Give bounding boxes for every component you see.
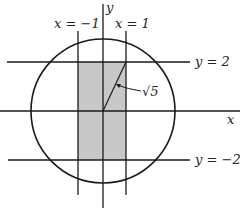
label-x-neg1: x = −1: [54, 16, 100, 31]
radius-label: √5: [142, 84, 159, 99]
label-y-pos2: y = 2: [194, 54, 230, 69]
label-y-neg2: y = −2: [194, 152, 240, 167]
y-axis-label: y: [105, 0, 114, 15]
diagram-canvas: y x x = −1 x = 1 y = 2 y = −2 √5: [0, 0, 240, 208]
label-x-pos1: x = 1: [115, 16, 150, 31]
x-axis-label: x: [227, 112, 235, 127]
